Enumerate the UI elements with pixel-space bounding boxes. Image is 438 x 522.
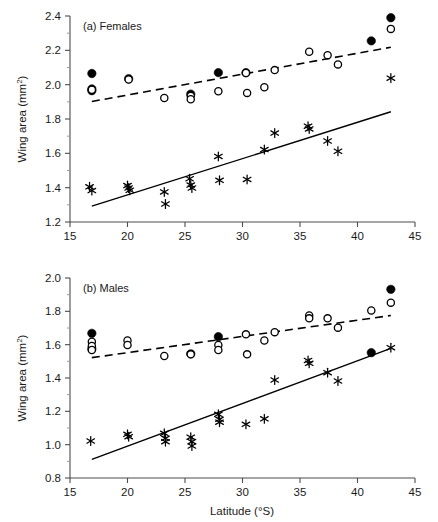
panel-females: 1.21.41.61.82.02.22.415202530354045(a) F…: [0, 0, 438, 258]
data-point-open-circle: [334, 61, 341, 68]
data-point-asterisk: [271, 129, 279, 138]
data-point-filled-circle: [367, 37, 375, 45]
x-axis-title: Latitude (°S): [210, 505, 274, 517]
x-tick-label: 40: [351, 230, 364, 242]
data-point-open-circle: [261, 84, 268, 91]
data-point-open-circle: [334, 324, 341, 331]
x-tick-label: 45: [409, 486, 422, 498]
data-point-open-circle: [161, 352, 168, 359]
wing-area-latitude-figure: 1.21.41.61.82.02.22.415202530354045(a) F…: [0, 0, 438, 522]
data-point-open-circle: [88, 346, 95, 353]
x-tick-label: 25: [179, 486, 192, 498]
y-tick-label: 2.4: [45, 10, 62, 22]
data-point-open-circle: [387, 25, 394, 32]
data-point-filled-circle: [214, 332, 222, 340]
data-point-asterisk: [160, 188, 168, 197]
data-point-open-circle: [306, 315, 313, 322]
x-tick-label: 30: [236, 486, 249, 498]
trend-line-asterisk-trend: [92, 348, 391, 459]
x-tick-label: 35: [294, 486, 307, 498]
data-point-open-circle: [261, 337, 268, 344]
data-point-open-circle: [187, 96, 194, 103]
y-tick-label: 2.2: [45, 44, 61, 56]
y-tick-label: 1.6: [45, 339, 61, 351]
data-point-open-circle: [306, 48, 313, 55]
data-point-open-circle: [125, 76, 132, 83]
x-tick-label: 20: [121, 486, 134, 498]
x-tick-label: 45: [409, 230, 422, 242]
y-tick-label: 1.6: [45, 147, 61, 159]
data-point-asterisk: [162, 200, 170, 209]
data-point-open-circle: [242, 331, 249, 338]
data-point-asterisk: [215, 152, 223, 161]
y-tick-label: 1.0: [45, 439, 61, 451]
data-point-filled-circle: [387, 285, 395, 293]
y-tick-label: 1.4: [45, 372, 62, 384]
y-tick-label: 0.8: [45, 472, 61, 484]
trend-line-open-circle-trend: [92, 47, 391, 101]
data-point-open-circle: [244, 89, 251, 96]
x-tick-label: 15: [64, 230, 77, 242]
data-point-filled-circle: [367, 348, 375, 356]
data-point-filled-circle: [88, 69, 96, 77]
data-point-asterisk: [387, 74, 395, 83]
data-point-open-circle: [215, 346, 222, 353]
panel-title: (b) Males: [83, 282, 129, 294]
svg-text:Wing area (mm2): Wing area (mm2): [15, 75, 28, 162]
data-point-asterisk: [87, 437, 95, 446]
data-point-asterisk: [334, 377, 342, 386]
data-point-asterisk: [271, 376, 279, 385]
females-scatter-plot: 1.21.41.61.82.02.22.415202530354045(a) F…: [0, 0, 438, 258]
data-point-asterisk: [242, 420, 250, 429]
y-tick-label: 1.2: [45, 405, 61, 417]
data-point-open-circle: [215, 88, 222, 95]
data-point-open-circle: [324, 52, 331, 59]
data-point-filled-circle: [387, 14, 395, 22]
y-axis-title: Wing area (mm2): [15, 334, 28, 421]
data-point-asterisk: [216, 418, 224, 427]
y-axis-title: Wing area (mm2): [15, 75, 28, 162]
x-tick-label: 20: [121, 230, 134, 242]
data-point-filled-circle: [88, 329, 96, 337]
data-point-open-circle: [161, 94, 168, 101]
data-point-open-circle: [368, 307, 375, 314]
data-point-open-circle: [244, 351, 251, 358]
trend-line-asterisk-trend: [92, 112, 391, 206]
x-tick-label: 40: [351, 486, 364, 498]
data-point-open-circle: [242, 69, 249, 76]
y-tick-label: 1.8: [45, 113, 61, 125]
axis-lines: [70, 16, 415, 222]
data-point-open-circle: [271, 329, 278, 336]
x-tick-label: 15: [64, 486, 77, 498]
data-point-asterisk: [216, 176, 224, 185]
data-point-filled-circle: [214, 68, 222, 76]
data-point-open-circle: [324, 315, 331, 322]
x-tick-label: 30: [236, 230, 249, 242]
y-tick-label: 2.0: [45, 272, 61, 284]
y-tick-label: 1.2: [45, 216, 61, 228]
trend-line-open-circle-trend: [92, 316, 391, 358]
x-tick-label: 35: [294, 230, 307, 242]
data-point-asterisk: [162, 437, 170, 446]
data-point-asterisk: [261, 414, 269, 423]
y-tick-label: 1.4: [45, 182, 62, 194]
y-tick-label: 1.8: [45, 305, 61, 317]
svg-text:Wing area (mm2): Wing area (mm2): [15, 334, 28, 421]
panel-males: 0.81.01.21.41.61.82.015202530354045(b) M…: [0, 258, 438, 522]
males-scatter-plot: 0.81.01.21.41.61.82.015202530354045(b) M…: [0, 258, 438, 522]
data-point-open-circle: [387, 299, 394, 306]
x-tick-label: 25: [179, 230, 192, 242]
data-point-asterisk: [334, 147, 342, 156]
data-point-open-circle: [271, 66, 278, 73]
data-point-asterisk: [243, 175, 251, 184]
data-point-open-circle: [187, 351, 194, 358]
data-point-open-circle: [88, 86, 95, 93]
data-point-open-circle: [124, 341, 131, 348]
panel-title: (a) Females: [83, 20, 142, 32]
data-point-asterisk: [387, 343, 395, 352]
y-tick-label: 2.0: [45, 79, 61, 91]
data-point-asterisk: [324, 137, 332, 146]
